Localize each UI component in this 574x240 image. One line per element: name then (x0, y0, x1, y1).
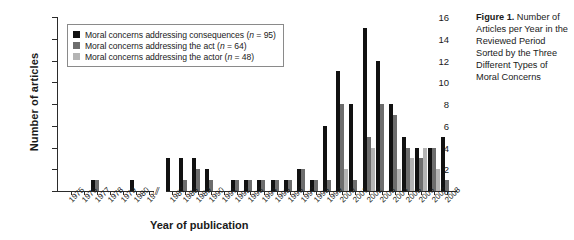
legend-label-consequences: Moral concerns addressing consequences (… (85, 30, 276, 40)
y-axis-title: Number of articles (28, 22, 40, 182)
bar-group (375, 17, 388, 191)
legend-item: Moral concerns addressing the act (n = 6… (73, 40, 276, 51)
legend-label-actor: Moral concerns addressing the actor (n =… (85, 52, 254, 62)
figure-caption-text: Number of Articles per Year in the Revie… (476, 12, 568, 82)
bar-group (428, 17, 441, 191)
bar (380, 104, 384, 191)
bar-group (336, 17, 349, 191)
chart-legend: Moral concerns addressing consequences (… (67, 24, 284, 67)
bar-group (323, 17, 336, 191)
bar-group (415, 17, 428, 191)
bar-group (283, 17, 296, 191)
figure-container: Number of articles 0246810121416 1975197… (0, 0, 574, 240)
bar-group (401, 17, 414, 191)
bar (423, 148, 427, 192)
bar (410, 158, 414, 191)
bar-group (309, 17, 322, 191)
bar-group (296, 17, 309, 191)
bar-group (441, 17, 454, 191)
figure-caption-label: Figure 1. (476, 12, 514, 22)
legend-label-act: Moral concerns addressing the act (n = 6… (85, 41, 247, 51)
bar (371, 148, 375, 192)
bar (349, 104, 353, 191)
legend-item: Moral concerns addressing the actor (n =… (73, 51, 276, 62)
figure-caption: Figure 1. Number of Articles per Year in… (476, 11, 572, 83)
y-tick (52, 191, 57, 192)
legend-item: Moral concerns addressing consequences (… (73, 29, 276, 40)
axis-break-symbol: // (154, 183, 157, 199)
x-axis-title: Year of publication (150, 219, 248, 231)
legend-swatch-act (73, 42, 80, 49)
legend-swatch-consequences (73, 31, 80, 38)
bar-group (349, 17, 362, 191)
bar-group (388, 17, 401, 191)
bar-group (362, 17, 375, 191)
legend-swatch-actor (73, 53, 80, 60)
